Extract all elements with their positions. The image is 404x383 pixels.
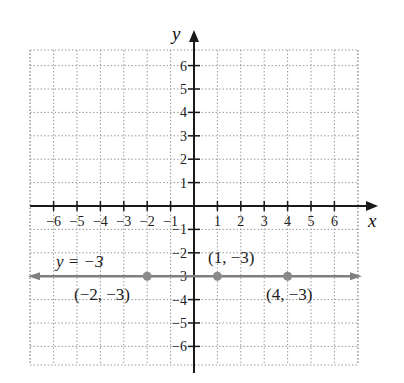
svg-text:−3: −3	[116, 214, 131, 229]
svg-text:1: 1	[214, 214, 221, 229]
svg-text:3: 3	[261, 214, 268, 229]
svg-text:4: 4	[284, 214, 291, 229]
svg-text:−6: −6	[46, 214, 61, 229]
svg-text:−5: −5	[172, 316, 187, 331]
svg-text:5: 5	[180, 82, 187, 97]
equation-label: y = −3	[54, 252, 104, 271]
svg-text:6: 6	[180, 59, 187, 74]
coordinate-plane: −6−5−4−3−2−1123456654321−1−2−3−4−5−6 y x…	[0, 0, 404, 383]
axes	[30, 30, 378, 373]
svg-text:−5: −5	[70, 214, 85, 229]
svg-text:3: 3	[180, 129, 187, 144]
svg-text:−4: −4	[172, 293, 187, 308]
point-label-1: (1, −3)	[208, 248, 254, 267]
svg-text:5: 5	[308, 214, 315, 229]
svg-text:4: 4	[180, 105, 187, 120]
svg-text:2: 2	[237, 214, 244, 229]
svg-text:−4: −4	[93, 214, 108, 229]
svg-text:−6: −6	[172, 339, 187, 354]
point-label-4: (4, −3)	[266, 285, 312, 304]
point-label-neg2: (−2, −3)	[74, 285, 130, 304]
svg-text:6: 6	[331, 214, 338, 229]
svg-text:−1: −1	[172, 222, 187, 237]
svg-text:−2: −2	[140, 214, 155, 229]
svg-text:1: 1	[180, 176, 187, 191]
svg-text:−2: −2	[172, 246, 187, 261]
svg-text:2: 2	[180, 152, 187, 167]
x-axis-label: x	[367, 210, 377, 231]
y-axis-label: y	[170, 23, 181, 44]
